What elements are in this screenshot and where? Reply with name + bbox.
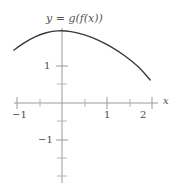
x-tick-label-1: 1 (104, 110, 110, 120)
graph-figure: y = g(f(x)) −1 1 2 1 −1 x (0, 0, 178, 186)
plot-title: y = g(f(x)) (46, 13, 103, 24)
y-tick-label--1: −1 (38, 135, 53, 145)
y-tick-label-1: 1 (44, 61, 50, 71)
plot-canvas (0, 0, 178, 186)
x-tick-label-2: 2 (140, 110, 146, 120)
x-tick-label--1: −1 (12, 110, 27, 120)
x-axis-label: x (163, 96, 169, 106)
function-curve (14, 31, 150, 80)
